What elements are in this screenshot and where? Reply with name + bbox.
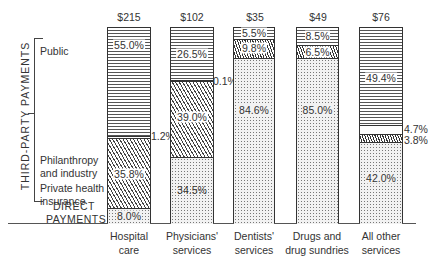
pct-public: 26.5% bbox=[176, 49, 208, 60]
pct-direct: 34.5% bbox=[176, 185, 208, 196]
category-line2: services bbox=[341, 243, 421, 257]
bar-hospital-care[interactable]: 55.0% 35.8% 8.0% bbox=[107, 27, 151, 223]
bar-physicians-services[interactable]: 26.5% 39.0% 34.5% bbox=[170, 27, 214, 223]
legend-public-text: Public bbox=[40, 45, 69, 57]
legend-label-philanthropy: Philanthropy and industry bbox=[40, 154, 98, 180]
category-line1: All other bbox=[341, 229, 421, 243]
bar-dentists-services[interactable]: 5.5% 9.8% 84.6% bbox=[233, 27, 275, 223]
legend-philanthropy-line1: Philanthropy bbox=[40, 154, 98, 167]
legend-direct-line1: DIRECT bbox=[46, 200, 102, 213]
legend-direct-line2: PAYMENTS bbox=[46, 213, 102, 226]
axis-title-third-party-payments: THIRD-PARTY PAYMENTS bbox=[19, 31, 31, 201]
pct-public: 8.5% bbox=[305, 31, 331, 42]
segment-private-insurance bbox=[360, 134, 402, 142]
category-all-other-services: All other services bbox=[341, 229, 421, 257]
pct-private: 35.8% bbox=[113, 169, 145, 180]
pct-private: 9.8% bbox=[241, 43, 267, 54]
legend-label-public: Public bbox=[40, 45, 69, 58]
pct-private: 6.5% bbox=[305, 47, 331, 58]
segment-philanthropy bbox=[360, 125, 402, 134]
segment-direct bbox=[234, 58, 274, 224]
total-all-other: $76 bbox=[359, 11, 403, 23]
pct-direct: 84.6% bbox=[238, 105, 270, 116]
pct-public: 49.4% bbox=[365, 73, 397, 84]
total-hospital: $215 bbox=[107, 11, 151, 23]
bar-drugs-sundries[interactable]: 8.5% 6.5% 85.0% bbox=[296, 27, 339, 223]
pct-public: 55.0% bbox=[113, 40, 145, 51]
legend-private-line1: Private health bbox=[40, 182, 104, 195]
pct-direct: 85.0% bbox=[302, 105, 334, 116]
bar-all-other-services[interactable]: 49.4% 42.0% bbox=[359, 27, 403, 223]
pct-private-all-other: 3.8% bbox=[404, 135, 428, 146]
total-drugs: $49 bbox=[296, 11, 340, 23]
legend-philanthropy-line2: and industry bbox=[40, 167, 98, 180]
pct-private: 39.0% bbox=[176, 112, 208, 123]
total-dentists: $35 bbox=[233, 11, 277, 23]
pct-direct: 42.0% bbox=[365, 173, 397, 184]
pct-direct: 8.0% bbox=[116, 211, 142, 222]
pct-public: 5.5% bbox=[241, 28, 267, 39]
segment-direct bbox=[297, 58, 338, 224]
total-physicians: $102 bbox=[170, 11, 214, 23]
legend-bracket-tick bbox=[28, 113, 34, 114]
